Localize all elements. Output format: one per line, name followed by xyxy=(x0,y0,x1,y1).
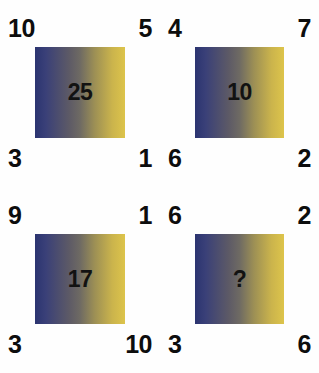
puzzle-panel-1: 10 5 3 1 25 xyxy=(0,0,160,187)
panel-4-corner-bottom-left: 3 xyxy=(168,332,181,357)
panel-3-gradient-square: 17 xyxy=(35,234,125,324)
panel-3-corner-top-right: 1 xyxy=(139,203,152,228)
panel-1-center-value: 25 xyxy=(68,81,93,104)
puzzle-panel-3: 9 1 3 10 17 xyxy=(0,187,160,373)
panel-2-gradient-square: 10 xyxy=(195,47,284,138)
panel-3-center-value: 17 xyxy=(68,268,93,291)
panel-4-gradient-square: ? xyxy=(195,234,284,324)
panel-1-corner-bottom-right: 1 xyxy=(139,146,152,171)
panel-3-corner-bottom-left: 3 xyxy=(8,332,21,357)
panel-4-center-value-unknown: ? xyxy=(233,268,247,291)
panel-3-corner-bottom-right: 10 xyxy=(125,332,152,357)
panel-4-frame: 6 2 3 6 ? xyxy=(168,203,311,357)
panel-4-corner-top-right: 2 xyxy=(298,203,311,228)
puzzle-panel-4: 6 2 3 6 ? xyxy=(160,187,319,373)
panel-1-frame: 10 5 3 1 25 xyxy=(8,16,152,171)
panel-4-corner-bottom-right: 6 xyxy=(298,332,311,357)
panel-2-corner-top-left: 4 xyxy=(168,16,181,41)
panel-1-corner-bottom-left: 3 xyxy=(8,146,21,171)
panel-2-frame: 4 7 6 2 10 xyxy=(168,16,311,171)
panel-3-corner-top-left: 9 xyxy=(8,203,21,228)
puzzle-grid: 10 5 3 1 25 4 7 6 2 10 9 1 3 10 17 xyxy=(0,0,319,373)
panel-2-center-value: 10 xyxy=(227,81,252,104)
panel-1-gradient-square: 25 xyxy=(35,47,125,138)
panel-1-corner-top-right: 5 xyxy=(139,16,152,41)
puzzle-panel-2: 4 7 6 2 10 xyxy=(160,0,319,187)
panel-1-corner-top-left: 10 xyxy=(8,16,35,41)
panel-4-corner-top-left: 6 xyxy=(168,203,181,228)
panel-3-frame: 9 1 3 10 17 xyxy=(8,203,152,357)
panel-2-corner-bottom-right: 2 xyxy=(298,146,311,171)
panel-2-corner-top-right: 7 xyxy=(298,16,311,41)
panel-2-corner-bottom-left: 6 xyxy=(168,146,181,171)
